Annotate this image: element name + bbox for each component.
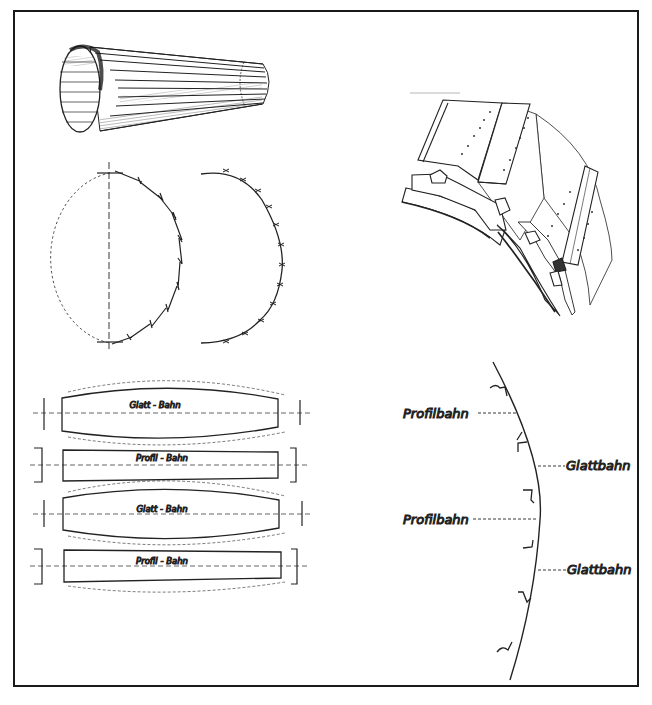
strip-label: Profil - Bahn (136, 556, 188, 566)
strip-layout: Glatt - Bahn Profil - Bahn Glatt - Bahn (30, 381, 310, 592)
strip-glatt-2: Glatt - Bahn (33, 481, 310, 545)
label-profilbahn-2: Profilbahn (403, 512, 469, 527)
profile-section: Profilbahn Glattbahn Profilbahn Glattbah… (403, 362, 632, 680)
strip-label: Profil - Bahn (136, 453, 188, 463)
label-glattbahn-1: Glattbahn (566, 458, 631, 473)
label-glattbahn-2: Glattbahn (567, 562, 632, 577)
strip-profil-1: Profil - Bahn (30, 448, 310, 482)
strip-profil-2: Profil - Bahn (30, 549, 310, 592)
cross-section-left (51, 162, 182, 350)
cross-section-right (201, 169, 285, 343)
strip-label: Glatt - Bahn (129, 400, 180, 410)
cone-drum (60, 46, 269, 132)
segment-assembly (402, 93, 612, 316)
label-profilbahn-1: Profilbahn (403, 406, 469, 421)
strip-label: Glatt - Bahn (136, 504, 187, 514)
diagram-canvas: Glatt - Bahn Profil - Bahn Glatt - Bahn (0, 0, 652, 705)
strip-glatt-1: Glatt - Bahn (33, 381, 310, 445)
